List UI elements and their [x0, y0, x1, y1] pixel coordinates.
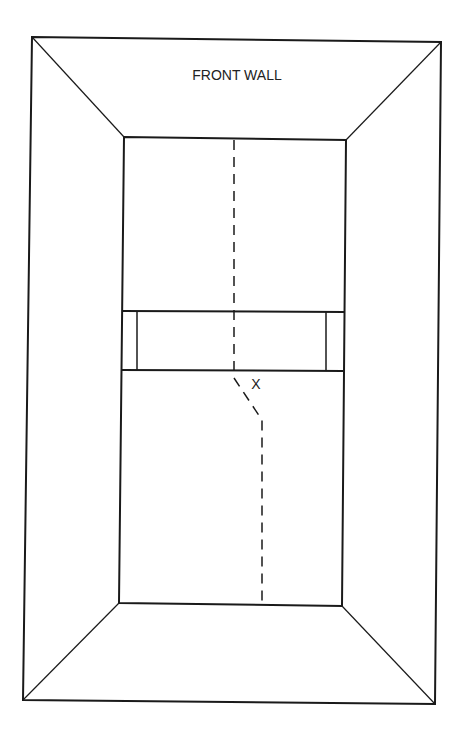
corner-line-top-right: [346, 42, 441, 140]
corner-line-bottom-left: [23, 603, 119, 700]
front-wall-label: FRONT WALL: [192, 67, 282, 83]
position-marker: X: [251, 376, 261, 392]
corner-line-bottom-right: [342, 606, 435, 704]
court-diagram: FRONT WALL X: [0, 0, 465, 737]
short-line: [122, 311, 344, 312]
corner-line-top-left: [32, 37, 124, 137]
dashed-path: [234, 140, 262, 604]
service-line: [121, 370, 343, 371]
